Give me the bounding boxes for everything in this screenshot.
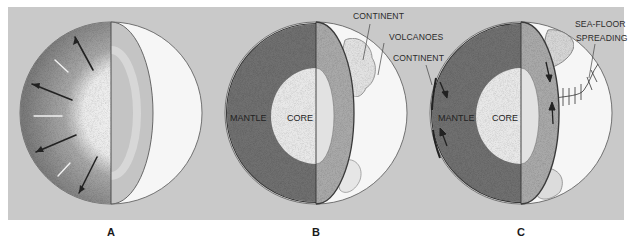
mantle-label-b: MANTLE xyxy=(230,113,267,123)
core-label-b: CORE xyxy=(287,113,313,123)
continent-label-side: CONTINENT xyxy=(393,53,445,63)
sea-floor-label-line1: SEA-FLOOR xyxy=(575,19,626,29)
panel-a-sphere xyxy=(20,22,202,204)
panel-a-letter: A xyxy=(107,226,115,238)
sea-floor-label-line2: SPREADING xyxy=(576,33,628,43)
panel-c-letter: C xyxy=(517,226,525,238)
volcanoes-label: VOLCANOES xyxy=(389,32,444,42)
core-label-c: CORE xyxy=(492,113,518,123)
earth-layers-figure: A CONTINENT VOLCANOES CONTINENT MANTLE C… xyxy=(0,0,635,242)
continent-label-top: CONTINENT xyxy=(353,11,405,21)
panel-b-letter: B xyxy=(312,226,320,238)
mantle-label-c: MANTLE xyxy=(438,113,475,123)
